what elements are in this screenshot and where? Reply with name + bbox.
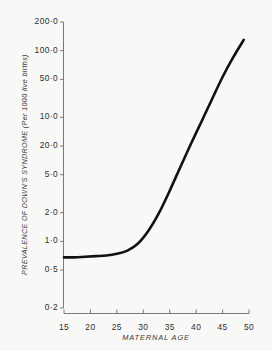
plot-area (0, 0, 272, 351)
chart-figure: PREVALENCE OF DOWN'S SYNDROME (Per 1000 … (0, 0, 272, 351)
data-series-group (64, 40, 244, 258)
y-axis-ticks (60, 22, 64, 308)
axis-lines (64, 22, 250, 314)
x-axis-ticks (64, 310, 249, 314)
